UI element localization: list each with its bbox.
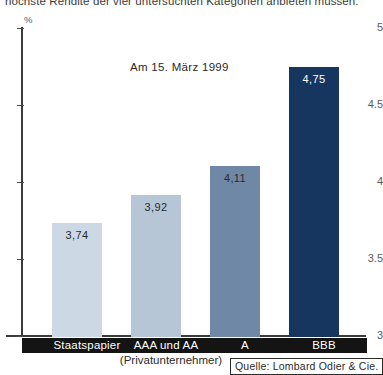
y-axis-unit: % <box>24 14 32 25</box>
y-label-4: 4 <box>367 175 383 187</box>
date-annotation: Am 15. März 1999 <box>130 61 229 73</box>
bar-a: 4,11 <box>210 166 260 337</box>
category-sublabel-privatunternehmer: (Privatunternehmer) <box>101 354 241 366</box>
category-label-staatspapier: Staatspapier <box>52 338 122 353</box>
category-label-aaa-und-aa: AAA und AA <box>131 338 201 353</box>
bar-staatspapier: 3,74 <box>52 223 102 337</box>
y-label-3_5: 3.5 <box>367 252 383 264</box>
source-note: Quelle: Lombard Odier & Cie. <box>230 358 383 375</box>
bar-value-staatspapier: 3,74 <box>52 229 102 241</box>
category-strip: Staatspapier AAA und AA A BBB <box>22 338 367 353</box>
bar-value-aaa-und-aa: 3,92 <box>131 201 181 213</box>
y-tick-3_5 <box>17 259 24 260</box>
category-label-a: A <box>210 338 280 353</box>
y-tick-3 <box>17 336 24 337</box>
y-label-5: 5 <box>367 21 383 33</box>
bar-value-bbb: 4,75 <box>289 73 339 85</box>
bar-value-a: 4,11 <box>210 172 260 184</box>
bar-bbb: 4,75 <box>289 67 339 337</box>
y-tick-5 <box>17 28 24 29</box>
y-label-3: 3 <box>367 329 383 341</box>
bar-aaa-und-aa: 3,92 <box>131 195 181 337</box>
y-label-4_5: 4.5 <box>367 98 383 110</box>
caption-text: höchste Rendite der vier untersuchten Ka… <box>5 0 383 8</box>
category-label-bbb: BBB <box>289 338 359 353</box>
y-tick-4 <box>17 182 24 183</box>
y-tick-4_5 <box>17 105 24 106</box>
